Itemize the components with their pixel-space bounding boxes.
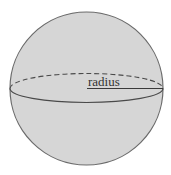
radius-label: radius (88, 74, 120, 89)
sphere-diagram: radius (0, 0, 171, 175)
